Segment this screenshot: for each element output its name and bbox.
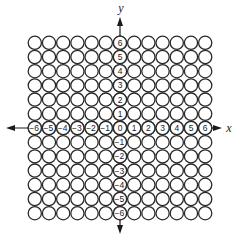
diagram-canvas: x y −6−5−4−3−2−10123456654321−1−2−3−4−5−…	[0, 0, 240, 238]
grid-circle	[71, 36, 84, 49]
grid-circle	[128, 164, 141, 177]
grid-circle	[142, 107, 155, 120]
grid-circle	[42, 207, 55, 220]
grid-circle	[156, 178, 169, 191]
grid-circle	[170, 164, 183, 177]
grid-circle	[42, 36, 55, 49]
grid-circle	[28, 36, 41, 49]
grid-circle	[28, 65, 41, 78]
grid-circle	[156, 36, 169, 49]
grid-circle	[42, 50, 55, 63]
grid-circle	[128, 79, 141, 92]
grid-circle	[42, 178, 55, 191]
grid-circle	[71, 50, 84, 63]
x-tick-label: 1	[132, 123, 137, 133]
grid-circle	[42, 164, 55, 177]
grid-circle	[57, 65, 70, 78]
grid-circle	[142, 192, 155, 205]
grid-circle	[85, 107, 98, 120]
grid-circle	[28, 164, 41, 177]
grid-circle	[85, 164, 98, 177]
grid-circle	[184, 50, 197, 63]
grid-circle	[57, 50, 70, 63]
y-tick-label: −2	[115, 151, 125, 161]
grid-circle	[99, 207, 112, 220]
x-tick-label: 4	[174, 123, 179, 133]
x-tick-label: −6	[29, 123, 39, 133]
grid-circle	[99, 36, 112, 49]
x-axis-right-arrow-icon	[213, 125, 222, 131]
y-tick-label: 5	[118, 52, 123, 62]
grid-circle	[85, 93, 98, 106]
grid-circle	[199, 93, 212, 106]
grid-circle	[128, 36, 141, 49]
grid-circle	[142, 178, 155, 191]
grid-circle	[42, 79, 55, 92]
grid-circle	[156, 79, 169, 92]
grid-circle	[170, 207, 183, 220]
grid-circle	[199, 79, 212, 92]
grid-circle	[28, 50, 41, 63]
grid-circle	[142, 65, 155, 78]
grid-circle	[128, 136, 141, 149]
grid-circle	[156, 207, 169, 220]
grid-circle	[85, 65, 98, 78]
grid-circle	[99, 65, 112, 78]
y-tick-label: −1	[115, 137, 125, 147]
grid-circle	[156, 50, 169, 63]
grid-circle	[71, 178, 84, 191]
grid-circle	[71, 107, 84, 120]
grid-circle	[57, 136, 70, 149]
grid-circle	[142, 93, 155, 106]
y-axis-up-arrow-icon	[117, 17, 123, 26]
grid-circle	[142, 50, 155, 63]
grid-circle	[71, 150, 84, 163]
grid-circle	[85, 36, 98, 49]
x-tick-label: 3	[160, 123, 165, 133]
grid-circle	[156, 65, 169, 78]
grid-circle	[184, 93, 197, 106]
grid-circle	[28, 178, 41, 191]
y-tick-label: 2	[118, 95, 123, 105]
grid-circle	[142, 150, 155, 163]
x-tick-label: −1	[100, 123, 110, 133]
y-axis-label: y	[117, 1, 124, 15]
grid-circle	[128, 107, 141, 120]
grid-circle	[184, 107, 197, 120]
grid-circle	[99, 79, 112, 92]
grid-circle	[99, 136, 112, 149]
grid-circle	[199, 65, 212, 78]
grid-circle	[170, 150, 183, 163]
grid-circle	[128, 150, 141, 163]
grid-circle	[128, 50, 141, 63]
grid-circle	[42, 107, 55, 120]
y-tick-label: −6	[115, 208, 125, 218]
grid-circle	[156, 136, 169, 149]
grid-circle	[170, 50, 183, 63]
grid-circle	[199, 178, 212, 191]
grid-circle	[42, 150, 55, 163]
grid-circle	[28, 136, 41, 149]
grid-circle	[99, 107, 112, 120]
grid-circle	[156, 93, 169, 106]
grid-circle	[71, 79, 84, 92]
x-axis-label: x	[225, 121, 232, 135]
grid-circle	[85, 207, 98, 220]
x-tick-label: 2	[146, 123, 151, 133]
grid-circle	[71, 136, 84, 149]
grid-circle	[128, 207, 141, 220]
grid-circle	[42, 93, 55, 106]
grid-circle	[57, 192, 70, 205]
grid-circle	[57, 79, 70, 92]
x-tick-label: 5	[189, 123, 194, 133]
grid-circle	[199, 150, 212, 163]
grid-circle	[85, 50, 98, 63]
y-tick-label: 6	[118, 38, 123, 48]
grid-circle	[99, 50, 112, 63]
grid-circle	[199, 107, 212, 120]
grid-circle	[142, 136, 155, 149]
grid-circle	[184, 207, 197, 220]
grid-circle	[85, 136, 98, 149]
grid-circle	[71, 93, 84, 106]
grid-circle	[71, 192, 84, 205]
